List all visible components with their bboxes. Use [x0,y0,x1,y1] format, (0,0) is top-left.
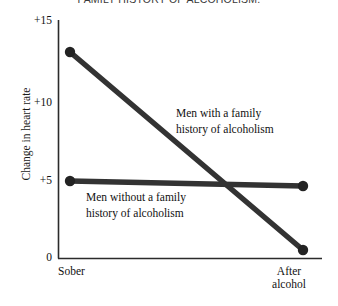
series-without-family-history [65,176,308,191]
chart-figure: FAMILY HISTORY OF ALCOHOLISM. Change in … [0,0,338,306]
series-annotation-with-family-history: Men with a family history of alcoholism [176,106,274,137]
data-point-with-after-alcohol [298,245,308,255]
data-point-without-after-alcohol [298,181,308,191]
x-tick-label-sober: Sober [58,265,85,278]
data-point-without-sober [65,176,75,186]
x-tick-label-after-alcohol: After alcohol [258,265,320,291]
y-axis-tick-labels: +15 +10 +5 0 [0,0,52,306]
y-tick-label-10: +10 [8,97,52,109]
series-with-family-history [65,47,308,255]
y-tick-label-0: 0 [8,252,52,264]
data-point-with-sober [65,47,75,57]
y-tick-label-15: +15 [8,15,52,27]
y-tick-label-5: +5 [8,175,52,187]
series-line-without-family-history [70,181,303,186]
series-annotation-without-family-history: Men without a family history of alcoholi… [86,190,186,221]
